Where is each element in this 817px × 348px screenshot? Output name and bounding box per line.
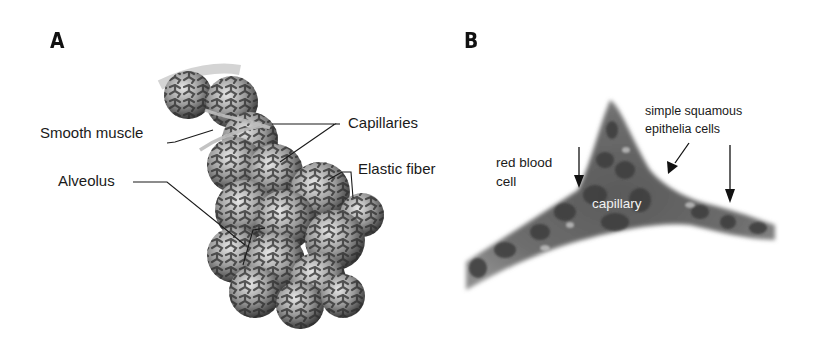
- label-alveolus: Alveolus: [58, 172, 115, 190]
- alveoli-cluster: [164, 71, 384, 329]
- label-elastic-fiber: Elastic fiber: [358, 160, 436, 178]
- label-red-blood-cell-line1: red blood: [496, 155, 552, 171]
- label-red-blood-cell-line2: cell: [496, 174, 516, 190]
- label-smooth-muscle: Smooth muscle: [40, 124, 143, 142]
- label-squamous-line1: simple squamous: [645, 104, 742, 119]
- label-squamous-line2: epithelia cells: [645, 122, 720, 137]
- label-capillary: capillary: [592, 196, 642, 212]
- label-capillaries: Capillaries: [348, 114, 418, 132]
